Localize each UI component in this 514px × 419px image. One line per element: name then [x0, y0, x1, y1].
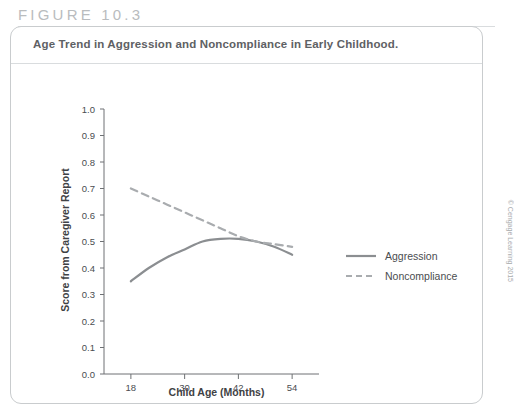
- legend-item-aggression: Aggression: [346, 246, 457, 266]
- svg-text:1.0: 1.0: [82, 104, 95, 115]
- y-tick-marks: [100, 109, 104, 374]
- chart-legend: Aggression Noncompliance: [346, 246, 457, 286]
- x-axis-title: Child Age (Months): [104, 386, 329, 398]
- figure-panel: Age Trend in Aggression and Noncomplianc…: [10, 26, 483, 404]
- chart-series-lines: [131, 189, 292, 282]
- figure-number-label: FIGURE 10.3: [18, 6, 143, 23]
- line-chart-svg: 0.00.10.20.30.40.50.60.70.80.91.0 183042…: [11, 64, 482, 404]
- y-tick-labels: 0.00.10.20.30.40.50.60.70.80.91.0: [82, 104, 95, 380]
- copyright-notice: © Cengage Learning 2015: [507, 200, 514, 282]
- chart-axes: [104, 109, 319, 374]
- series-line-aggression: [131, 239, 292, 282]
- svg-text:0.2: 0.2: [82, 316, 95, 327]
- svg-text:0.5: 0.5: [82, 236, 95, 247]
- svg-text:0.7: 0.7: [82, 183, 95, 194]
- svg-text:0.3: 0.3: [82, 289, 95, 300]
- svg-text:0.8: 0.8: [82, 157, 95, 168]
- legend-item-noncompliance: Noncompliance: [346, 266, 457, 286]
- y-axis-title: Score from Caregiver Report: [59, 160, 71, 320]
- svg-text:0.1: 0.1: [82, 342, 95, 353]
- x-tick-marks: [131, 374, 292, 379]
- chart-plot-area: 0.00.10.20.30.40.50.60.70.80.91.0 183042…: [11, 64, 482, 404]
- series-line-noncompliance: [131, 189, 292, 247]
- svg-text:0.9: 0.9: [82, 130, 95, 141]
- legend-swatch-dashed-icon: [346, 271, 376, 281]
- svg-text:0.6: 0.6: [82, 210, 95, 221]
- legend-label-aggression: Aggression: [385, 250, 438, 262]
- legend-label-noncompliance: Noncompliance: [385, 270, 457, 282]
- legend-swatch-solid-icon: [346, 251, 376, 261]
- svg-text:0.4: 0.4: [82, 263, 95, 274]
- figure-caption: Age Trend in Aggression and Noncomplianc…: [33, 38, 398, 50]
- svg-text:0.0: 0.0: [82, 369, 95, 380]
